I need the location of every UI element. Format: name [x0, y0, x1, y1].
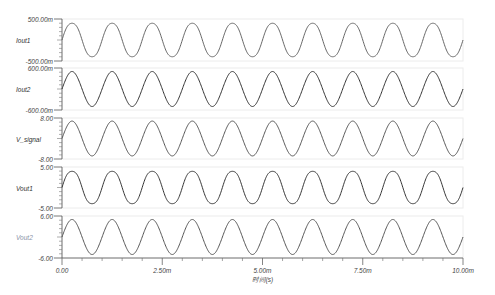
- y-min-label: -5.00: [38, 205, 53, 212]
- series-label: Vout2: [16, 234, 33, 241]
- panel-vout2: [54, 216, 463, 258]
- y-min-label: -600.00m: [26, 107, 54, 114]
- y-min-label: -500.00m: [26, 58, 54, 65]
- y-max-label: 600.00m: [28, 65, 54, 72]
- waveform-iout2: [62, 72, 463, 107]
- y-min-label: -8.00: [38, 156, 53, 163]
- x-axis-title: 时间(s): [252, 276, 274, 284]
- waveform-chart: 500.00m-500.00mIout1600.00m-600.00mIout2…: [0, 0, 495, 295]
- y-max-label: 500.00m: [28, 16, 54, 23]
- panel-iout2: [54, 68, 463, 110]
- y-max-label: 8.00: [40, 115, 53, 122]
- series-label: Iout1: [16, 37, 31, 44]
- series-label: V_signal: [16, 136, 41, 144]
- series-label: Vout1: [16, 185, 33, 192]
- x-tick-label: 10.00m: [452, 267, 474, 274]
- x-tick-label: 7.50m: [354, 267, 373, 274]
- chart-canvas: 500.00m-500.00mIout1600.00m-600.00mIout2…: [0, 0, 495, 295]
- panel-iout1: [54, 19, 463, 61]
- waveform-v-signal: [62, 121, 463, 156]
- x-axis: [62, 258, 463, 265]
- waveform-iout1: [62, 23, 463, 57]
- panel-vout1: [54, 167, 463, 208]
- x-tick-label: 2.50m: [152, 267, 172, 274]
- y-max-label: 5.00: [40, 164, 53, 171]
- y-max-label: 6.00: [40, 213, 53, 220]
- panel-v-signal: [54, 118, 463, 159]
- x-tick-label: 5.00m: [253, 267, 272, 274]
- y-min-label: -6.00: [38, 255, 53, 262]
- series-label: Iout2: [16, 86, 31, 93]
- waveform-vout2: [62, 220, 463, 255]
- waveform-vout1: [62, 171, 463, 203]
- x-tick-label: 0.00: [56, 267, 69, 274]
